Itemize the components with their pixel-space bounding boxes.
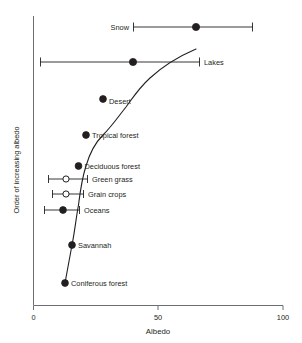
coniferous-forest-label: Coniferous forest bbox=[71, 279, 127, 288]
tropical-forest-label: Tropical forest bbox=[92, 131, 139, 140]
series-point-coniferous-forest: Coniferous forest bbox=[62, 279, 128, 288]
series-point-snow: Snow bbox=[111, 23, 254, 32]
series-point-tropical-forest: Tropical forest bbox=[83, 131, 139, 140]
oceans-marker bbox=[60, 207, 67, 214]
series-point-lakes: Lakes bbox=[40, 58, 224, 67]
oceans-label: Oceans bbox=[84, 206, 110, 215]
snow-label: Snow bbox=[111, 23, 130, 32]
green-grass-marker bbox=[63, 176, 69, 182]
x-tick-label-50: 50 bbox=[154, 313, 162, 322]
grain-crops-label: Grain crops bbox=[88, 190, 127, 199]
desert-label: Desert bbox=[109, 97, 131, 106]
deciduous-forest-marker bbox=[75, 163, 82, 170]
series-point-desert: Desert bbox=[100, 96, 131, 106]
tropical-forest-marker bbox=[83, 132, 90, 139]
x-axis-title: Albedo bbox=[146, 327, 171, 336]
x-tick-label-0: 0 bbox=[31, 313, 35, 322]
albedo-chart: 0 50 100 Albedo Order of increasing albe… bbox=[0, 0, 302, 343]
grain-crops-marker bbox=[63, 191, 69, 197]
desert-marker bbox=[100, 96, 107, 103]
series-point-deciduous-forest: Deciduous forest bbox=[75, 162, 140, 171]
green-grass-label: Green grass bbox=[92, 175, 133, 184]
coniferous-forest-marker bbox=[62, 280, 69, 287]
x-tick-label-100: 100 bbox=[277, 313, 289, 322]
deciduous-forest-label: Deciduous forest bbox=[85, 162, 140, 171]
savannah-marker bbox=[69, 242, 76, 249]
y-axis-title: Order of increasing albedo bbox=[12, 126, 21, 213]
savannah-label: Savannah bbox=[78, 241, 111, 250]
series-point-green-grass: Green grass bbox=[48, 175, 133, 184]
chart-canvas: 0 50 100 Albedo Order of increasing albe… bbox=[0, 0, 302, 343]
series-point-savannah: Savannah bbox=[69, 241, 112, 250]
series-point-grain-crops: Grain crops bbox=[52, 190, 127, 199]
lakes-marker bbox=[129, 58, 136, 65]
lakes-label: Lakes bbox=[204, 58, 224, 67]
snow-marker bbox=[192, 23, 199, 30]
